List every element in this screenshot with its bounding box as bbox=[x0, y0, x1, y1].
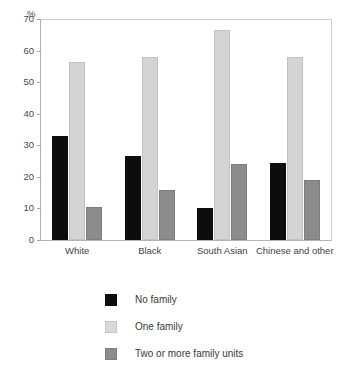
y-tick-label: 20 bbox=[12, 172, 34, 182]
bar bbox=[142, 57, 158, 240]
bar bbox=[304, 180, 320, 240]
bar-group bbox=[186, 19, 259, 240]
bar-group bbox=[114, 19, 187, 240]
y-tick-label: 10 bbox=[12, 203, 34, 213]
bar bbox=[270, 163, 286, 240]
bar bbox=[86, 207, 102, 240]
legend-item-label: No family bbox=[135, 294, 177, 305]
bar bbox=[287, 57, 303, 240]
plot-frame-right bbox=[331, 19, 332, 241]
legend-item-label: Two or more family units bbox=[135, 348, 243, 359]
y-tick-label: 50 bbox=[12, 77, 34, 87]
y-tick-label: 0 bbox=[12, 235, 34, 245]
bar bbox=[69, 62, 85, 240]
legend-item-label: One family bbox=[135, 321, 183, 332]
x-tick-label: Chinese and other bbox=[235, 245, 346, 256]
y-tick-label: 30 bbox=[12, 140, 34, 150]
bar bbox=[52, 136, 68, 240]
bar-group bbox=[259, 19, 332, 240]
legend-item[interactable]: Two or more family units bbox=[105, 340, 243, 367]
bar bbox=[231, 164, 247, 240]
legend-swatch-icon bbox=[105, 294, 117, 306]
legend-item[interactable]: No family bbox=[105, 286, 243, 313]
y-tick-mark bbox=[37, 240, 41, 241]
plot-area bbox=[41, 19, 331, 240]
bar bbox=[125, 156, 141, 240]
y-tick-label: 60 bbox=[12, 46, 34, 56]
legend-item[interactable]: One family bbox=[105, 313, 243, 340]
x-axis-line bbox=[40, 240, 332, 241]
legend-swatch-icon bbox=[105, 321, 117, 333]
bar bbox=[214, 30, 230, 240]
bar bbox=[197, 208, 213, 240]
bar-group bbox=[41, 19, 114, 240]
bar bbox=[159, 190, 175, 240]
chart-legend: No familyOne familyTwo or more family un… bbox=[105, 286, 243, 367]
legend-swatch-icon bbox=[105, 348, 117, 360]
bar-chart: % 010203040506070 WhiteBlackSouth AsianC… bbox=[0, 0, 346, 368]
y-tick-label: 70 bbox=[12, 14, 34, 24]
y-tick-label: 40 bbox=[12, 109, 34, 119]
